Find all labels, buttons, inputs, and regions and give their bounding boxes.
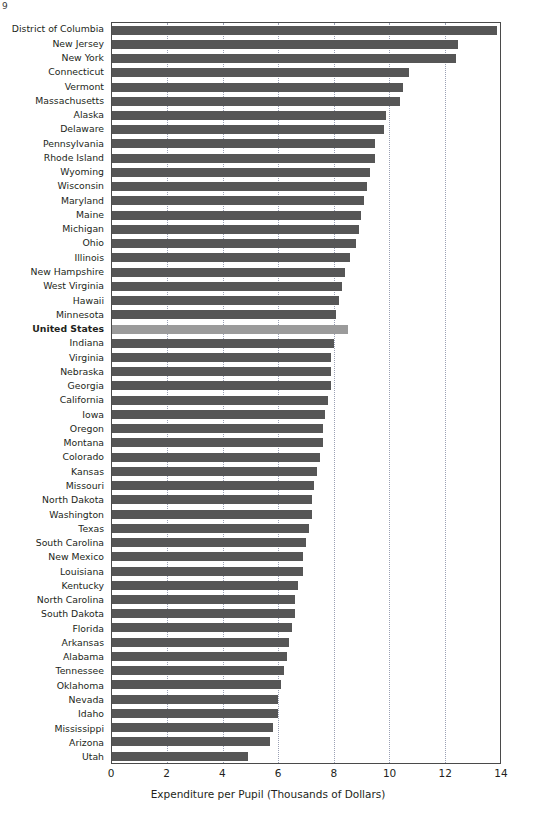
bar[interactable] [112, 609, 295, 618]
bar[interactable] [112, 97, 400, 106]
bar-row[interactable] [112, 464, 500, 478]
bar[interactable] [112, 552, 303, 561]
bar-row[interactable] [112, 37, 500, 51]
bar-row[interactable] [112, 493, 500, 507]
bar[interactable] [112, 225, 359, 234]
bar-row[interactable] [112, 137, 500, 151]
bar[interactable] [112, 723, 273, 732]
bar-row[interactable] [112, 607, 500, 621]
bar[interactable] [112, 139, 375, 148]
bar-row[interactable] [112, 635, 500, 649]
bar-row[interactable] [112, 279, 500, 293]
bar-row[interactable] [112, 180, 500, 194]
bar-row[interactable] [112, 237, 500, 251]
bar[interactable] [112, 652, 287, 661]
bar[interactable] [112, 453, 320, 462]
bar[interactable] [112, 125, 384, 134]
bar[interactable] [112, 111, 386, 120]
bar-row[interactable] [112, 692, 500, 706]
bar-row[interactable] [112, 251, 500, 265]
bar[interactable] [112, 310, 336, 319]
bar[interactable] [112, 282, 342, 291]
bar[interactable] [112, 581, 298, 590]
bar[interactable] [112, 510, 312, 519]
bar[interactable] [112, 567, 303, 576]
bar[interactable] [112, 495, 312, 504]
bar-row[interactable] [112, 578, 500, 592]
bar-row[interactable] [112, 507, 500, 521]
bar-row[interactable] [112, 678, 500, 692]
bar[interactable] [112, 211, 361, 220]
bar-row[interactable] [112, 308, 500, 322]
bar[interactable] [112, 154, 375, 163]
bar-row[interactable] [112, 422, 500, 436]
bar[interactable] [112, 695, 278, 704]
bar[interactable] [112, 666, 284, 675]
bar[interactable] [112, 410, 325, 419]
bar[interactable] [112, 524, 309, 533]
bar-row[interactable] [112, 564, 500, 578]
bar[interactable] [112, 623, 292, 632]
bar[interactable] [112, 538, 306, 547]
bar[interactable] [112, 268, 345, 277]
bar-row[interactable] [112, 123, 500, 137]
bar-row[interactable] [112, 151, 500, 165]
bar-row[interactable] [112, 664, 500, 678]
bar[interactable] [112, 339, 334, 348]
bar-row[interactable] [112, 23, 500, 37]
bar[interactable] [112, 26, 497, 35]
bar-row[interactable] [112, 649, 500, 663]
bar[interactable] [112, 40, 458, 49]
bar-row[interactable] [112, 265, 500, 279]
bar[interactable] [112, 253, 350, 262]
bar-row[interactable] [112, 749, 500, 763]
bar[interactable] [112, 168, 370, 177]
bar[interactable] [112, 396, 328, 405]
bar[interactable] [112, 481, 314, 490]
bar-row[interactable] [112, 108, 500, 122]
bar-row[interactable] [112, 535, 500, 549]
bar[interactable] [112, 737, 270, 746]
bar[interactable] [112, 196, 364, 205]
bar-row[interactable] [112, 450, 500, 464]
bar-row[interactable] [112, 350, 500, 364]
bar[interactable] [112, 595, 295, 604]
bar-row[interactable] [112, 293, 500, 307]
bar-row[interactable] [112, 194, 500, 208]
bar-row[interactable] [112, 436, 500, 450]
bar[interactable] [112, 182, 367, 191]
bar[interactable] [112, 367, 331, 376]
bar[interactable] [112, 424, 323, 433]
bar-row[interactable] [112, 51, 500, 65]
bar-row[interactable] [112, 720, 500, 734]
bar-row[interactable] [112, 521, 500, 535]
bar[interactable] [112, 296, 339, 305]
bar[interactable] [112, 381, 331, 390]
bar-row[interactable] [112, 336, 500, 350]
bar-row[interactable] [112, 735, 500, 749]
bar-row[interactable] [112, 222, 500, 236]
bar-row[interactable] [112, 621, 500, 635]
bar-row[interactable] [112, 479, 500, 493]
bar-row[interactable] [112, 322, 500, 336]
bar-row[interactable] [112, 407, 500, 421]
bar-row[interactable] [112, 165, 500, 179]
bar-row[interactable] [112, 94, 500, 108]
bar[interactable] [112, 54, 456, 63]
bar-row[interactable] [112, 379, 500, 393]
bar[interactable] [112, 467, 317, 476]
bar-row[interactable] [112, 550, 500, 564]
bar[interactable] [112, 438, 323, 447]
bar-row[interactable] [112, 393, 500, 407]
bar[interactable] [112, 353, 331, 362]
bar-row[interactable] [112, 80, 500, 94]
bar[interactable] [112, 709, 278, 718]
bar-row[interactable] [112, 592, 500, 606]
bar-row[interactable] [112, 706, 500, 720]
bar[interactable] [112, 83, 403, 92]
bar-row[interactable] [112, 365, 500, 379]
bar-row[interactable] [112, 208, 500, 222]
bar[interactable] [112, 752, 248, 761]
bar[interactable] [112, 325, 348, 334]
bar[interactable] [112, 68, 409, 77]
